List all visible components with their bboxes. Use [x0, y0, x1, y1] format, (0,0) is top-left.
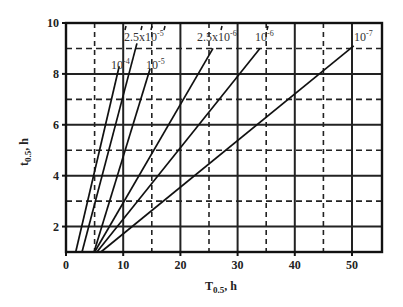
x-tick-label: 20 — [174, 258, 186, 272]
x-tick-label: 50 — [346, 258, 358, 272]
x-tick-label: 30 — [232, 258, 244, 272]
chart: 10-42.5x10-510-52.5x10-610-610-7 2468100… — [0, 0, 403, 307]
series-line — [76, 66, 119, 252]
series-label: 2.5x10-5 — [124, 29, 164, 44]
x-tick-label: 0 — [63, 258, 69, 272]
y-tick-label: 2 — [53, 220, 59, 234]
y-axis-label: t0.5, h — [17, 138, 33, 166]
series-label: 2.5x10-6 — [197, 29, 237, 44]
y-tick-label: 4 — [53, 169, 59, 183]
series-label: 10-7 — [354, 29, 373, 44]
series-line — [94, 69, 150, 252]
series-line — [95, 48, 213, 252]
series-line — [101, 46, 354, 252]
tick-labels: 24681001020304050 — [47, 16, 358, 272]
y-tick-label: 6 — [53, 118, 59, 132]
grid — [62, 23, 382, 256]
series-label: 10-4 — [111, 57, 130, 72]
y-tick-label: 10 — [47, 16, 59, 30]
x-axis-label: T0.5, h — [205, 279, 237, 295]
series-label: 10-5 — [146, 57, 165, 72]
x-tick-label: 40 — [289, 258, 301, 272]
y-tick-label: 8 — [53, 67, 59, 81]
x-tick-label: 10 — [117, 258, 129, 272]
series-label: 10-6 — [255, 29, 274, 44]
